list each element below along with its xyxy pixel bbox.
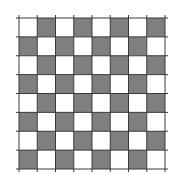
light-cell — [129, 131, 147, 150]
light-cell — [56, 18, 74, 37]
light-cell — [110, 75, 128, 94]
light-cell — [37, 112, 55, 131]
dark-cell — [147, 18, 165, 37]
light-cell — [110, 37, 128, 56]
light-cell — [92, 56, 110, 75]
light-cell — [56, 131, 74, 150]
dark-cell — [110, 18, 128, 37]
dark-cell — [37, 94, 55, 113]
dark-cell — [129, 150, 147, 169]
light-cell — [37, 37, 55, 56]
light-cell — [74, 150, 92, 169]
light-cell — [92, 18, 110, 37]
light-cell — [147, 112, 165, 131]
light-cell — [129, 18, 147, 37]
light-cell — [56, 94, 74, 113]
light-cell — [19, 18, 37, 37]
light-cell — [110, 112, 128, 131]
light-cell — [147, 150, 165, 169]
dark-cell — [129, 112, 147, 131]
dark-cell — [56, 75, 74, 94]
checkerboard-grid — [0, 0, 176, 175]
dark-cell — [110, 94, 128, 113]
dark-cell — [56, 112, 74, 131]
dark-cell — [147, 131, 165, 150]
dark-cell — [92, 37, 110, 56]
light-cell — [147, 37, 165, 56]
light-cell — [56, 56, 74, 75]
light-cell — [37, 75, 55, 94]
dark-cell — [19, 75, 37, 94]
light-cell — [37, 150, 55, 169]
dark-cell — [19, 150, 37, 169]
light-cell — [92, 94, 110, 113]
dark-cell — [92, 112, 110, 131]
light-cell — [129, 56, 147, 75]
dark-cell — [74, 18, 92, 37]
light-cell — [147, 75, 165, 94]
light-cell — [74, 75, 92, 94]
light-cell — [19, 131, 37, 150]
light-cell — [74, 112, 92, 131]
light-cell — [92, 131, 110, 150]
dark-cell — [19, 112, 37, 131]
dark-cell — [74, 56, 92, 75]
dark-cell — [147, 94, 165, 113]
dark-cell — [37, 56, 55, 75]
dark-cell — [129, 37, 147, 56]
dark-cell — [147, 56, 165, 75]
light-cell — [74, 37, 92, 56]
dark-cell — [74, 94, 92, 113]
dark-cell — [19, 37, 37, 56]
dark-cell — [74, 131, 92, 150]
dark-cell — [110, 56, 128, 75]
dark-cell — [56, 37, 74, 56]
dark-cell — [92, 150, 110, 169]
dark-cell — [129, 75, 147, 94]
dark-cell — [37, 18, 55, 37]
light-cell — [19, 56, 37, 75]
dark-cell — [92, 75, 110, 94]
light-cell — [110, 150, 128, 169]
dark-cell — [110, 131, 128, 150]
dark-cell — [37, 131, 55, 150]
dark-cell — [56, 150, 74, 169]
light-cell — [19, 94, 37, 113]
light-cell — [129, 94, 147, 113]
